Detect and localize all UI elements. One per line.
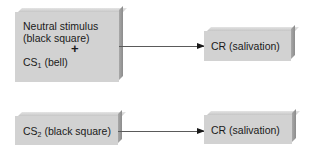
cr-salivation-label: CR (salivation) (211, 124, 280, 136)
arrow-row1 (119, 46, 204, 47)
black-square-label: (black square) (23, 32, 90, 44)
cs-suffix: (black square) (42, 125, 111, 137)
response-box-row2: CR (salivation) (204, 115, 292, 144)
cs-prefix: CS (23, 56, 38, 68)
response-box-row1: CR (salivation) (204, 31, 291, 61)
cr-salivation-label: CR (salivation) (211, 40, 280, 52)
compound-stimulus-box: Neutral stimulus (black square) + CS1 (b… (15, 12, 119, 82)
cs1-bell-label: CS1 (bell) (23, 56, 68, 68)
neutral-stimulus-label: Neutral stimulus (23, 20, 98, 32)
cs-prefix: CS (23, 125, 38, 137)
plus-sign: + (71, 43, 79, 55)
cs-suffix: (bell) (42, 56, 68, 68)
cs2-stimulus-box: CS2 (black square) (15, 116, 118, 145)
arrow-row2 (118, 131, 204, 132)
cs2-black-square-label: CS2 (black square) (23, 125, 111, 137)
